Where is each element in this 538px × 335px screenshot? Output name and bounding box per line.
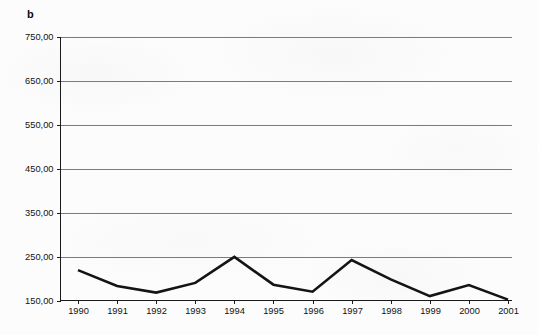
x-tick-label-2000: 2000 [459, 306, 480, 316]
y-tick-label-550: 550,00 [25, 120, 53, 130]
x-tick-label-2001: 2001 [498, 306, 519, 316]
y-tick-label-750: 750,00 [25, 32, 53, 42]
x-tick-label-1996: 1996 [303, 306, 324, 316]
x-tick-label-1999: 1999 [420, 306, 441, 316]
y-tick-label-650: 650,00 [25, 76, 53, 86]
y-tick-label-350: 350,00 [25, 208, 53, 218]
y-tick-label-250: 250,00 [25, 252, 53, 262]
x-axis-tick-labels: 1990199119921993199419951996199719981999… [68, 306, 519, 316]
x-tick-label-1990: 1990 [68, 306, 89, 316]
y-tick-label-150: 150,00 [25, 296, 53, 306]
y-axis-tick-labels: 150,00250,00350,00450,00550,00650,00750,… [25, 32, 53, 306]
x-tick-label-1992: 1992 [146, 306, 167, 316]
y-axis-tick-marks [57, 38, 61, 302]
y-tick-label-450: 450,00 [25, 164, 53, 174]
x-tick-label-1991: 1991 [107, 306, 128, 316]
x-tick-label-1994: 1994 [224, 306, 245, 316]
data-series-line [78, 257, 508, 300]
x-tick-label-1995: 1995 [263, 306, 284, 316]
line-chart: 150,00250,00350,00450,00550,00650,00750,… [0, 0, 538, 335]
x-tick-label-1993: 1993 [185, 306, 206, 316]
gridlines [61, 38, 513, 258]
figure-panel-b: b 150,00250,00350,00450,00550,00650,0075… [0, 0, 538, 335]
x-tick-label-1998: 1998 [381, 306, 402, 316]
x-tick-label-1997: 1997 [342, 306, 363, 316]
